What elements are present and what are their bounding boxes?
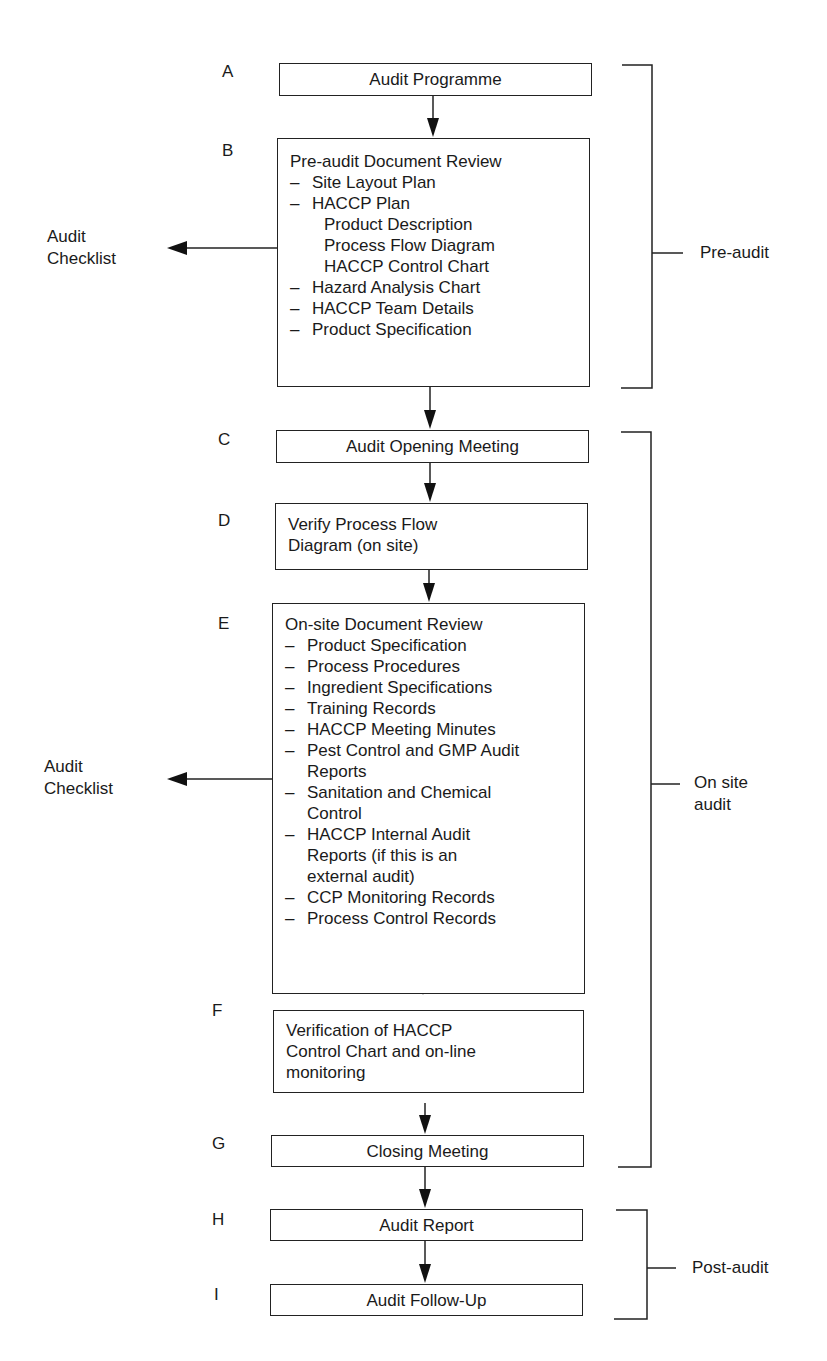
list-item: –Sanitation and Chemical — [285, 782, 584, 803]
arrowhead-checklist-2 — [167, 772, 187, 786]
list-item: –Product Specification — [285, 635, 584, 656]
arrowhead-d-e — [423, 583, 435, 602]
step-title: Pre-audit Document Review — [290, 151, 589, 172]
side-output-audit-checklist-1: Audit Checklist — [47, 226, 116, 270]
step-title: Audit Report — [379, 1215, 474, 1236]
step-box-verification-haccp-control-chart: Verification of HACCP Control Chart and … — [273, 1010, 584, 1093]
step-box-closing-meeting: Closing Meeting — [271, 1135, 584, 1167]
list-item: –HACCP Team Details — [290, 298, 589, 319]
phase-label-on-site-audit: On site audit — [694, 772, 748, 816]
step-letter-d: D — [218, 511, 238, 531]
list-item: –Hazard Analysis Chart — [290, 277, 589, 298]
arrowhead-b-c — [424, 410, 436, 429]
step-title: Closing Meeting — [367, 1141, 489, 1162]
step-letter-g: G — [212, 1134, 232, 1154]
step-title-line: Control Chart and on-line — [286, 1041, 583, 1062]
list-subitem: Process Flow Diagram — [290, 235, 589, 256]
step-box-audit-opening-meeting: Audit Opening Meeting — [276, 430, 589, 463]
arrowhead-g-h — [419, 1189, 431, 1208]
arrowhead-a-b — [427, 118, 439, 137]
list-item: –HACCP Meeting Minutes — [285, 719, 584, 740]
step-box-pre-audit-document-review: Pre-audit Document Review –Site Layout P… — [277, 138, 590, 387]
list-item: –Training Records — [285, 698, 584, 719]
step-box-audit-report: Audit Report — [270, 1209, 583, 1241]
list-item: –Process Procedures — [285, 656, 584, 677]
list-item-continuation: Reports (if this is an — [285, 845, 584, 866]
arrowhead-h-i — [419, 1264, 431, 1283]
step-letter-c: C — [218, 430, 238, 450]
step-box-audit-follow-up: Audit Follow-Up — [270, 1284, 583, 1316]
list-item-continuation: Reports — [285, 761, 584, 782]
list-subitem: HACCP Control Chart — [290, 256, 589, 277]
step-title-line: monitoring — [286, 1062, 583, 1083]
list-item: –Site Layout Plan — [290, 172, 589, 193]
list-item: –HACCP Plan — [290, 193, 589, 214]
step-title: Audit Programme — [369, 69, 501, 90]
arrowhead-c-d — [424, 483, 436, 502]
step-letter-h: H — [212, 1210, 232, 1230]
step-title-line: Diagram (on site) — [288, 535, 587, 556]
step-letter-e: E — [218, 614, 238, 634]
step-box-audit-programme: Audit Programme — [279, 63, 592, 96]
step-letter-i: I — [214, 1285, 234, 1305]
list-item: –Ingredient Specifications — [285, 677, 584, 698]
list-item: –Process Control Records — [285, 908, 584, 929]
list-item: –Pest Control and GMP Audit — [285, 740, 584, 761]
step-title: On-site Document Review — [285, 614, 584, 635]
list-subitem: Product Description — [290, 214, 589, 235]
list-item-continuation: Control — [285, 803, 584, 824]
step-letter-b: B — [222, 141, 242, 161]
phase-label-post-audit: Post-audit — [692, 1257, 769, 1279]
list-item-continuation: external audit) — [285, 866, 584, 887]
step-title: Audit Opening Meeting — [346, 436, 519, 457]
list-item: –Product Specification — [290, 319, 589, 340]
step-letter-f: F — [212, 1001, 232, 1021]
side-output-audit-checklist-2: Audit Checklist — [44, 756, 113, 800]
step-title: Audit Follow-Up — [367, 1290, 487, 1311]
step-box-on-site-document-review: On-site Document Review –Product Specifi… — [272, 603, 585, 994]
step-letter-a: A — [222, 62, 242, 82]
arrowhead-f-g — [419, 1115, 431, 1134]
list-item: –HACCP Internal Audit — [285, 824, 584, 845]
step-title-line: Verification of HACCP — [286, 1020, 583, 1041]
list-item: –CCP Monitoring Records — [285, 887, 584, 908]
phase-label-pre-audit: Pre-audit — [700, 242, 769, 264]
step-title-line: Verify Process Flow — [288, 514, 587, 535]
arrowhead-checklist-1 — [167, 241, 187, 255]
step-box-verify-process-flow: Verify Process Flow Diagram (on site) — [275, 503, 588, 570]
